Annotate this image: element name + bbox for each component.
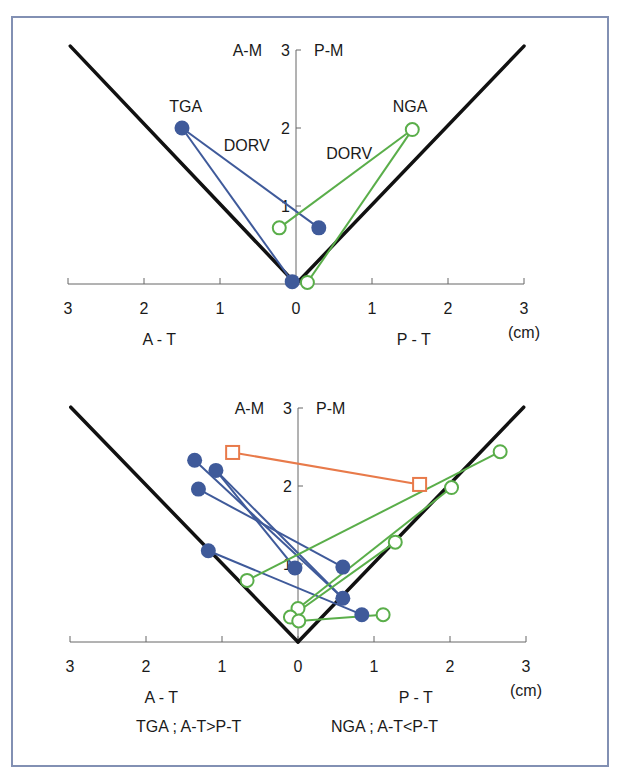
- x-tick-label: 1: [216, 300, 225, 317]
- x-tick-label: 2: [446, 658, 455, 675]
- y-label-right: P-M: [314, 42, 343, 59]
- x-tick-label: 0: [294, 658, 303, 675]
- connector-line: [299, 615, 383, 621]
- y-label-right: P-M: [316, 400, 345, 417]
- x-tick-label: 3: [64, 300, 73, 317]
- y-tick-label: 2: [283, 478, 292, 495]
- unit-label: (cm): [510, 682, 542, 699]
- boundary-line: [70, 46, 296, 284]
- open-circle-marker: [377, 608, 390, 621]
- caption-nga: NGA ; A-T<P-T: [331, 718, 438, 736]
- filled-circle-marker: [175, 121, 190, 136]
- bottom-chart: 3210123123A-MP-MA - TP - T(cm): [66, 400, 542, 706]
- open-circle-marker: [273, 221, 286, 234]
- caption-tga: TGA ; A-T>P-T: [136, 718, 241, 736]
- connector-line: [195, 460, 343, 598]
- series-special: [233, 452, 420, 484]
- filled-circle-marker: [335, 591, 350, 606]
- filled-circle-marker: [285, 274, 300, 289]
- x-label-left: A - T: [144, 689, 178, 706]
- open-circle-marker: [241, 574, 254, 587]
- filled-circle-marker: [187, 453, 202, 468]
- unit-label: (cm): [508, 324, 540, 341]
- y-label-left: A-M: [235, 400, 264, 417]
- x-tick-label: 3: [66, 658, 75, 675]
- open-circle-marker: [292, 614, 305, 627]
- x-label-right: P - T: [397, 331, 431, 348]
- y-tick-label: 2: [281, 120, 290, 137]
- x-label-right: P - T: [399, 689, 433, 706]
- open-circle-marker: [389, 536, 402, 549]
- filled-circle-marker: [208, 463, 223, 478]
- open-square-marker: [413, 478, 426, 491]
- x-tick-label: 0: [292, 300, 301, 317]
- filled-circle-marker: [287, 560, 302, 575]
- connector-line: [298, 488, 452, 609]
- annotation-dorv: DORV: [326, 145, 372, 162]
- open-circle-marker: [301, 276, 314, 289]
- filled-circle-marker: [335, 560, 350, 575]
- y-tick-label: 3: [283, 400, 292, 417]
- figure-plots: 3210123123A-MP-MA - TP - T(cm)TGADORVNGA…: [0, 0, 623, 778]
- filled-circle-marker: [311, 220, 326, 235]
- filled-circle-marker: [201, 543, 216, 558]
- x-tick-label: 2: [142, 658, 151, 675]
- top-chart: 3210123123A-MP-MA - TP - T(cm)TGADORVNGA…: [64, 42, 540, 348]
- open-square-marker: [226, 446, 239, 459]
- connector-line: [233, 452, 420, 484]
- annotation-dorv: DORV: [224, 137, 270, 154]
- filled-circle-marker: [354, 607, 369, 622]
- x-tick-label: 2: [140, 300, 149, 317]
- boundary-line: [298, 407, 524, 642]
- x-tick-label: 3: [522, 658, 531, 675]
- x-tick-label: 3: [520, 300, 529, 317]
- filled-circle-marker: [191, 482, 206, 497]
- open-circle-marker: [445, 481, 458, 494]
- annotation-nga: NGA: [393, 98, 428, 115]
- x-tick-label: 1: [218, 658, 227, 675]
- open-circle-marker: [406, 123, 419, 136]
- x-tick-label: 1: [368, 300, 377, 317]
- y-tick-label: 3: [281, 42, 290, 59]
- open-circle-marker: [494, 445, 507, 458]
- x-label-left: A - T: [142, 331, 176, 348]
- x-tick-label: 1: [370, 658, 379, 675]
- x-tick-label: 2: [444, 300, 453, 317]
- series-tga: [195, 460, 362, 614]
- y-label-left: A-M: [233, 42, 262, 59]
- annotation-tga: TGA: [169, 98, 202, 115]
